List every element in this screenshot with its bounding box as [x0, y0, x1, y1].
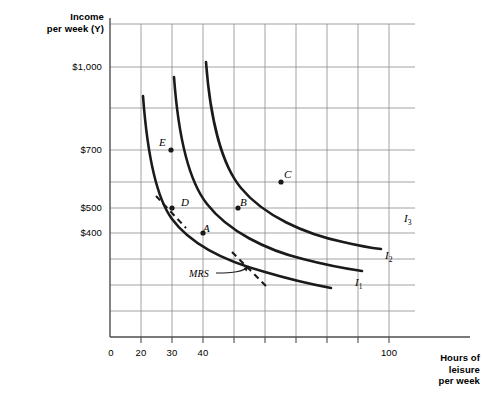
x-tick-label-30: 30 [157, 347, 187, 358]
curve-label-i1: I1 [355, 276, 362, 291]
point-label-a: A [203, 222, 210, 234]
point-marker-c [278, 179, 283, 184]
y-axis-title-line2: per week (Y) [18, 23, 104, 35]
x-axis-title-line2: leisure [412, 364, 480, 376]
point-label-e: E [159, 136, 166, 148]
x-axis-title: Hours of leisure per week [412, 352, 480, 387]
curve-label-i2: I2 [385, 249, 392, 264]
curve-label-i2-sub: 2 [389, 255, 393, 264]
x-axis-title-line1: Hours of [412, 352, 480, 364]
y-axis-title: Income per week (Y) [18, 11, 104, 34]
curve-label-i3-sub: 3 [408, 218, 412, 227]
y-axis-title-line1: Income [18, 11, 104, 23]
x-axis-title-line3: per week [412, 375, 480, 387]
x-tick-label-40: 40 [188, 347, 218, 358]
point-label-d: D [181, 196, 189, 208]
y-tick-label-700: $700 [42, 144, 102, 155]
indifference-curve-i3 [206, 62, 381, 249]
y-tick-label-1000: $1,000 [42, 61, 102, 72]
y-tick-label-500: $500 [42, 202, 102, 213]
curve-label-i3: I3 [404, 212, 411, 227]
point-label-c: C [284, 168, 291, 180]
point-label-b: B [240, 196, 247, 208]
indifference-curve-chart: Income per week (Y) Hours of leisure per… [0, 0, 483, 413]
y-tick-label-400: $400 [42, 227, 102, 238]
curve-label-i1-sub: 1 [359, 282, 363, 291]
indifference-curve-i2 [174, 77, 362, 271]
mrs-annotation-label: MRS [189, 268, 209, 279]
x-tick-label-20: 20 [126, 347, 156, 358]
x-tick-label-100: 100 [374, 347, 404, 358]
x-axis-ticks [141, 337, 389, 343]
point-marker-e [168, 147, 173, 152]
origin-label: 0 [96, 347, 126, 358]
mrs-arrow [216, 266, 249, 273]
point-marker-d [169, 205, 174, 210]
